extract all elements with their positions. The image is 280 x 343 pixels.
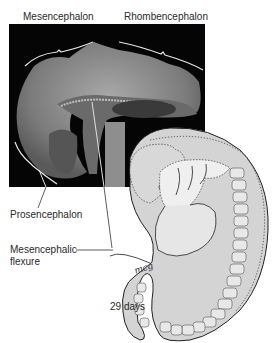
label-mesencephalic-flexure-line2: flexure xyxy=(10,256,40,268)
artist-signature: mcg xyxy=(133,259,155,276)
label-mesencephalic-flexure-line1: Mesencephalic xyxy=(10,244,77,256)
label-mesencephalon: Mesencephalon xyxy=(23,11,94,23)
label-rhombencephalon: Rhombencephalon xyxy=(124,11,208,23)
sem-micrograph xyxy=(9,24,205,187)
brain-tissue-image xyxy=(9,24,205,187)
label-age: 29 days xyxy=(110,301,145,313)
label-prosencephalon: Prosencephalon xyxy=(10,209,82,221)
